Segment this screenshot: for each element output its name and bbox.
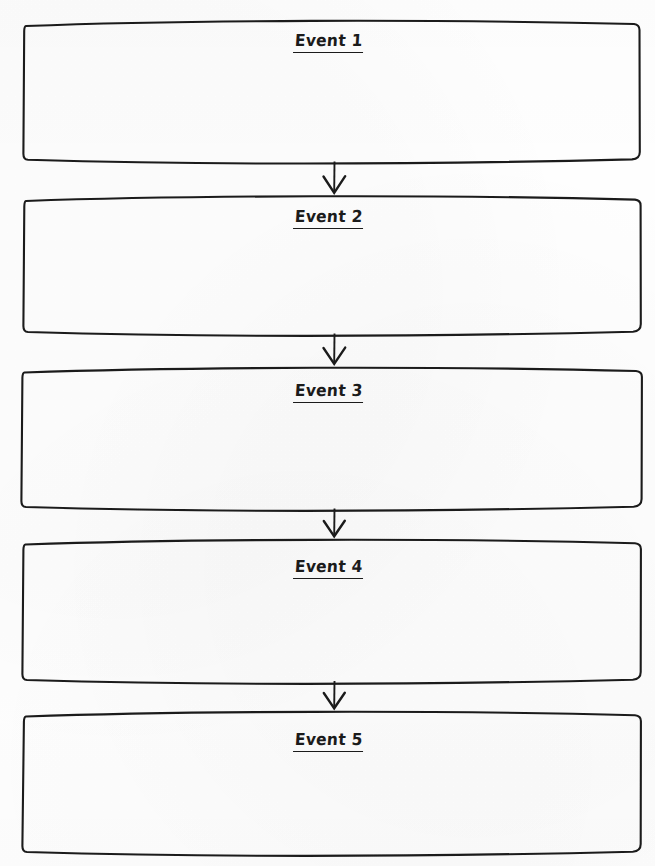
event-box-1[interactable]: Event 1 — [0, 31, 655, 53]
event-box-4[interactable]: Event 4 — [0, 557, 655, 579]
event-label-1: Event 1 — [293, 31, 364, 53]
event-label-4: Event 4 — [293, 557, 364, 579]
event-box-5[interactable]: Event 5 — [0, 730, 655, 752]
event-box-2[interactable]: Event 2 — [0, 207, 655, 229]
event-label-2: Event 2 — [293, 207, 364, 229]
event-label-3: Event 3 — [293, 381, 364, 403]
event-label-5: Event 5 — [293, 730, 364, 752]
event-labels-layer: Event 1 Event 2 Event 3 Event 4 Event 5 — [0, 0, 655, 866]
event-box-3[interactable]: Event 3 — [0, 381, 655, 403]
